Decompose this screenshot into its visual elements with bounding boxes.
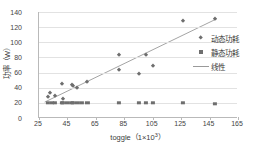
x-axis-tick-label: 105 bbox=[140, 120, 164, 127]
x-axis-tick-label: 165 bbox=[225, 120, 249, 127]
y-axis-tick-label: 40 bbox=[0, 84, 22, 91]
y-axis-tick-label: 80 bbox=[0, 54, 22, 61]
data-point bbox=[80, 101, 84, 104]
diamond-marker-icon bbox=[191, 36, 211, 39]
legend-item-static-power: 静态功耗 bbox=[191, 45, 253, 59]
gridline bbox=[39, 12, 237, 13]
chart-legend: 动态功耗 静态功耗 线性 bbox=[191, 31, 253, 73]
data-point bbox=[144, 101, 148, 104]
power-vs-toggle-scatter-chart: 功率（W） toggle（1×103） 动态功耗 静态功耗 线性 0204060… bbox=[0, 0, 262, 146]
x-axis-tick-label: 85 bbox=[111, 120, 135, 127]
data-point bbox=[85, 101, 89, 104]
data-point bbox=[117, 101, 121, 104]
line-marker-icon bbox=[191, 66, 211, 67]
x-axis-title: toggle（1×103） bbox=[38, 131, 237, 142]
y-axis-tick-label: 120 bbox=[0, 24, 22, 31]
data-point bbox=[213, 102, 217, 105]
x-axis-tick-label: 125 bbox=[168, 120, 192, 127]
y-axis-tick-label: 0 bbox=[0, 115, 22, 122]
y-axis-tick-label: 140 bbox=[0, 9, 22, 16]
data-point bbox=[151, 101, 155, 104]
legend-item-dynamic-power: 动态功耗 bbox=[191, 31, 253, 45]
legend-item-linear: 线性 bbox=[191, 59, 253, 73]
x-axis-tick-label: 45 bbox=[54, 120, 78, 127]
y-axis-tick-label: 20 bbox=[0, 99, 22, 106]
data-point bbox=[136, 101, 140, 104]
y-axis-tick-label: 60 bbox=[0, 69, 22, 76]
data-point bbox=[53, 101, 57, 104]
legend-label: 线性 bbox=[211, 61, 225, 72]
square-marker-icon bbox=[191, 50, 211, 54]
gridline bbox=[39, 27, 237, 28]
gridline bbox=[39, 88, 237, 89]
y-axis-tick-label: 100 bbox=[0, 39, 22, 46]
legend-label: 动态功耗 bbox=[211, 33, 239, 44]
x-axis-tick-label: 145 bbox=[197, 120, 221, 127]
x-axis-tick-label: 65 bbox=[83, 120, 107, 127]
data-point bbox=[180, 101, 184, 104]
legend-label: 静态功耗 bbox=[211, 47, 239, 58]
x-axis-tick-label: 25 bbox=[26, 120, 50, 127]
